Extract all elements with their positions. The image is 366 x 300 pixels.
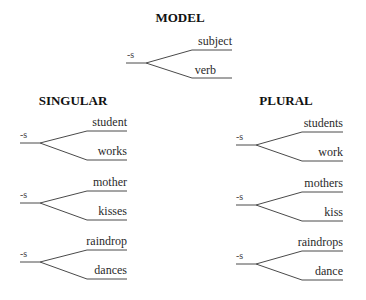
lower-word: works (98, 144, 128, 158)
upper-word: students (304, 116, 344, 130)
suffix-label: -s (20, 189, 27, 200)
model-heading: MODEL (155, 10, 204, 25)
lower-word: dances (94, 263, 127, 277)
model-suffix: -s (127, 49, 134, 60)
suffix-label: -s (236, 250, 243, 261)
upper-word: student (92, 115, 127, 129)
plural-diagram-1: -s students work (236, 116, 343, 161)
model-diagram: MODEL -s subject verb (126, 10, 233, 78)
singular-section: SINGULAR -s student works -s mother kiss… (20, 93, 128, 279)
plural-heading: PLURAL (259, 93, 313, 108)
singular-diagram-1: -s student works (20, 115, 128, 160)
singular-heading: SINGULAR (39, 93, 108, 108)
suffix-label: -s (20, 248, 27, 259)
lower-word: dance (315, 264, 343, 278)
plural-section: PLURAL -s students work -s mothers kiss … (236, 93, 343, 280)
model-upper-word: subject (198, 34, 233, 48)
suffix-label: -s (236, 191, 243, 202)
model-branch-lines (126, 50, 232, 78)
lower-word: kiss (324, 205, 343, 219)
upper-word: mother (93, 175, 127, 189)
lower-word: kisses (98, 204, 127, 218)
upper-word: raindrops (298, 235, 344, 249)
singular-diagram-3: -s raindrop dances (20, 234, 127, 279)
suffix-label: -s (236, 131, 243, 142)
upper-word: raindrop (86, 234, 127, 248)
plural-diagram-3: -s raindrops dance (236, 235, 343, 280)
lower-word: work (318, 145, 343, 159)
upper-word: mothers (304, 176, 343, 190)
suffix-label: -s (20, 129, 27, 140)
singular-diagram-2: -s mother kisses (20, 175, 127, 220)
model-lower-word: verb (195, 63, 216, 77)
plural-diagram-2: -s mothers kiss (236, 176, 343, 221)
diagram-canvas: MODEL -s subject verb SINGULAR -s studen… (0, 0, 366, 300)
